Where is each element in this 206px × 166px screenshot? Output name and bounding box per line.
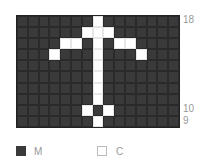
chart-cell [82, 116, 93, 127]
chart-cell [60, 71, 71, 82]
chart-cell [147, 60, 158, 71]
legend-label-m: M [34, 146, 42, 157]
chart-cell [60, 16, 71, 27]
chart-cell [71, 60, 82, 71]
chart-cell [39, 105, 50, 116]
chart-cell [103, 83, 114, 94]
chart-cell [71, 71, 82, 82]
chart-cell [114, 38, 125, 49]
chart-cell [82, 16, 93, 27]
chart-cell [147, 16, 158, 27]
chart-cell [71, 38, 82, 49]
chart-cell [71, 16, 82, 27]
chart-cell [17, 60, 28, 71]
chart-cell [147, 94, 158, 105]
knitting-chart-grid [16, 15, 180, 128]
chart-cell [60, 60, 71, 71]
chart-cell [147, 27, 158, 38]
chart-cell [17, 49, 28, 60]
chart-cell [39, 49, 50, 60]
chart-cell [114, 16, 125, 27]
chart-cell [82, 27, 93, 38]
chart-cell [168, 71, 179, 82]
chart-cell [49, 38, 60, 49]
chart-cell [17, 71, 28, 82]
chart-cell [49, 71, 60, 82]
chart-cell [125, 83, 136, 94]
chart-cell [49, 60, 60, 71]
chart-cell [157, 49, 168, 60]
chart-cell [71, 116, 82, 127]
row-label-9: 9 [183, 116, 189, 126]
chart-cell [93, 16, 104, 27]
chart-cell [60, 94, 71, 105]
chart-cell [136, 16, 147, 27]
chart-cell [28, 116, 39, 127]
chart-cell [147, 83, 158, 94]
chart-cell [168, 16, 179, 27]
chart-cell [60, 38, 71, 49]
chart-cell [103, 94, 114, 105]
chart-cell [157, 71, 168, 82]
chart-cell [17, 83, 28, 94]
legend-label-c: C [116, 146, 123, 157]
chart-cell [147, 71, 158, 82]
chart-cell [49, 27, 60, 38]
chart-cell [28, 38, 39, 49]
chart-cell [136, 105, 147, 116]
chart-cell [60, 27, 71, 38]
chart-cell [39, 38, 50, 49]
chart-cell [114, 49, 125, 60]
chart-cell [168, 116, 179, 127]
chart-cell [125, 60, 136, 71]
chart-cell [168, 94, 179, 105]
chart-cell [168, 83, 179, 94]
chart-cell [60, 83, 71, 94]
row-label-10: 10 [183, 104, 194, 114]
chart-cell [60, 49, 71, 60]
chart-cell [136, 49, 147, 60]
chart-cell [17, 16, 28, 27]
chart-cell [28, 71, 39, 82]
chart-cell [114, 94, 125, 105]
chart-cell [17, 116, 28, 127]
chart-cell [17, 94, 28, 105]
chart-cell [39, 27, 50, 38]
chart-cell [114, 60, 125, 71]
chart-cell [136, 83, 147, 94]
chart-cell [125, 38, 136, 49]
chart-cell [136, 27, 147, 38]
chart-cell [93, 60, 104, 71]
chart-cell [28, 27, 39, 38]
chart-cell [49, 16, 60, 27]
chart-cell [103, 71, 114, 82]
chart-cell [60, 105, 71, 116]
chart-cell [103, 60, 114, 71]
chart-cell [136, 71, 147, 82]
chart-cell [114, 27, 125, 38]
chart-cell [125, 16, 136, 27]
chart-cell [157, 16, 168, 27]
chart-cell [93, 38, 104, 49]
chart-cell [168, 105, 179, 116]
chart-cell [71, 83, 82, 94]
chart-cell [17, 27, 28, 38]
chart-cell [125, 71, 136, 82]
chart-cell [49, 116, 60, 127]
chart-cell [28, 49, 39, 60]
chart-cell [39, 71, 50, 82]
chart-cell [28, 94, 39, 105]
chart-cell [28, 16, 39, 27]
chart-cell [82, 94, 93, 105]
chart-cell [71, 49, 82, 60]
chart-cell [125, 94, 136, 105]
chart-cell [82, 60, 93, 71]
chart-cell [136, 94, 147, 105]
chart-cell [103, 49, 114, 60]
chart-cell [82, 38, 93, 49]
chart-cell [49, 83, 60, 94]
chart-cell [125, 27, 136, 38]
chart-cell [147, 105, 158, 116]
chart-cell [39, 94, 50, 105]
chart-cell [93, 94, 104, 105]
